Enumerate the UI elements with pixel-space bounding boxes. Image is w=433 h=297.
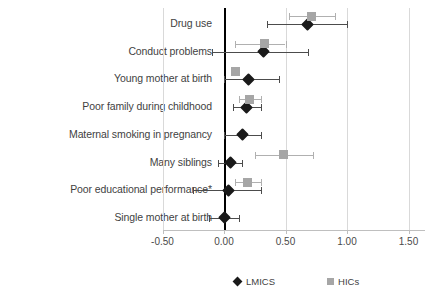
data-point-lmics xyxy=(242,73,255,86)
forest-row xyxy=(224,119,425,147)
forest-row xyxy=(224,202,425,230)
confidence-interval-cap xyxy=(218,160,219,167)
confidence-interval-cap xyxy=(286,41,287,48)
axis-tick xyxy=(224,230,225,234)
forest-row xyxy=(224,36,425,64)
confidence-interval-cap xyxy=(235,41,236,48)
data-point-lmics xyxy=(218,212,231,225)
axis-tick xyxy=(286,230,287,234)
diamond-marker-icon xyxy=(233,276,243,286)
forest-row xyxy=(224,91,425,119)
axis-tick-label: 1.50 xyxy=(389,236,429,247)
category-axis-labels: Drug useConduct problemsYoung mother at … xyxy=(0,8,218,230)
category-label: Poor family during childhood xyxy=(0,100,212,112)
confidence-interval-cap xyxy=(233,104,234,111)
forest-row xyxy=(224,147,425,175)
category-label: Young mother at birth xyxy=(0,72,212,84)
legend-label-hics: HICs xyxy=(338,276,359,287)
square-marker-icon xyxy=(327,278,334,285)
confidence-interval-cap xyxy=(239,96,240,103)
confidence-interval-cap xyxy=(261,187,262,194)
data-point-hics xyxy=(260,39,269,48)
confidence-interval-cap xyxy=(209,215,210,222)
confidence-interval-cap xyxy=(267,21,268,28)
x-axis-line xyxy=(163,230,425,231)
plot-area xyxy=(224,8,425,230)
category-label: Maternal smoking in pregnancy xyxy=(0,128,212,140)
data-point-hics xyxy=(307,12,316,21)
confidence-interval-cap xyxy=(239,215,240,222)
confidence-interval-cap xyxy=(224,76,225,83)
confidence-interval-cap xyxy=(255,152,256,159)
data-point-hics xyxy=(245,95,254,104)
data-point-hics xyxy=(231,67,240,76)
forest-row xyxy=(224,174,425,202)
data-point-lmics xyxy=(224,156,237,169)
confidence-interval-cap xyxy=(261,179,262,186)
confidence-interval-cap xyxy=(261,96,262,103)
confidence-interval-cap xyxy=(335,13,336,20)
axis-tick xyxy=(347,230,348,234)
forest-row xyxy=(224,63,425,91)
confidence-interval-cap xyxy=(224,132,225,139)
category-label: Poor educational performance* xyxy=(0,183,212,195)
confidence-interval-cap xyxy=(261,104,262,111)
category-label: Conduct problems xyxy=(0,45,212,57)
category-label: Many siblings xyxy=(0,156,212,168)
confidence-interval-cap xyxy=(242,160,243,167)
confidence-interval-cap xyxy=(193,187,194,194)
legend-item-lmics: LMICS xyxy=(234,276,275,287)
axis-tick-label: 1.00 xyxy=(327,236,367,247)
legend-label-lmics: LMICS xyxy=(246,276,275,287)
forest-row xyxy=(224,8,425,36)
data-point-hics xyxy=(243,178,252,187)
data-point-lmics xyxy=(223,184,236,197)
data-point-hics xyxy=(279,150,288,159)
confidence-interval-cap xyxy=(308,49,309,56)
confidence-interval-cap xyxy=(212,49,213,56)
category-label: Single mother at birth xyxy=(0,211,212,223)
axis-tick-label: 0.50 xyxy=(266,236,306,247)
confidence-interval-cap xyxy=(289,13,290,20)
confidence-interval-cap xyxy=(235,179,236,186)
chart-legend: LMICS HICs xyxy=(224,272,425,290)
axis-tick-label: -0.50 xyxy=(143,236,183,247)
confidence-interval-cap xyxy=(347,21,348,28)
confidence-interval-cap xyxy=(261,132,262,139)
axis-tick xyxy=(409,230,410,234)
data-point-lmics xyxy=(236,128,249,141)
confidence-interval-cap xyxy=(279,76,280,83)
legend-item-hics: HICs xyxy=(327,276,359,287)
axis-tick xyxy=(163,230,164,234)
confidence-interval-cap xyxy=(313,152,314,159)
category-label: Drug use xyxy=(0,17,212,29)
axis-tick-label: 0.00 xyxy=(204,236,244,247)
forest-plot-figure: Drug useConduct problemsYoung mother at … xyxy=(0,0,433,297)
gridline xyxy=(163,8,164,230)
